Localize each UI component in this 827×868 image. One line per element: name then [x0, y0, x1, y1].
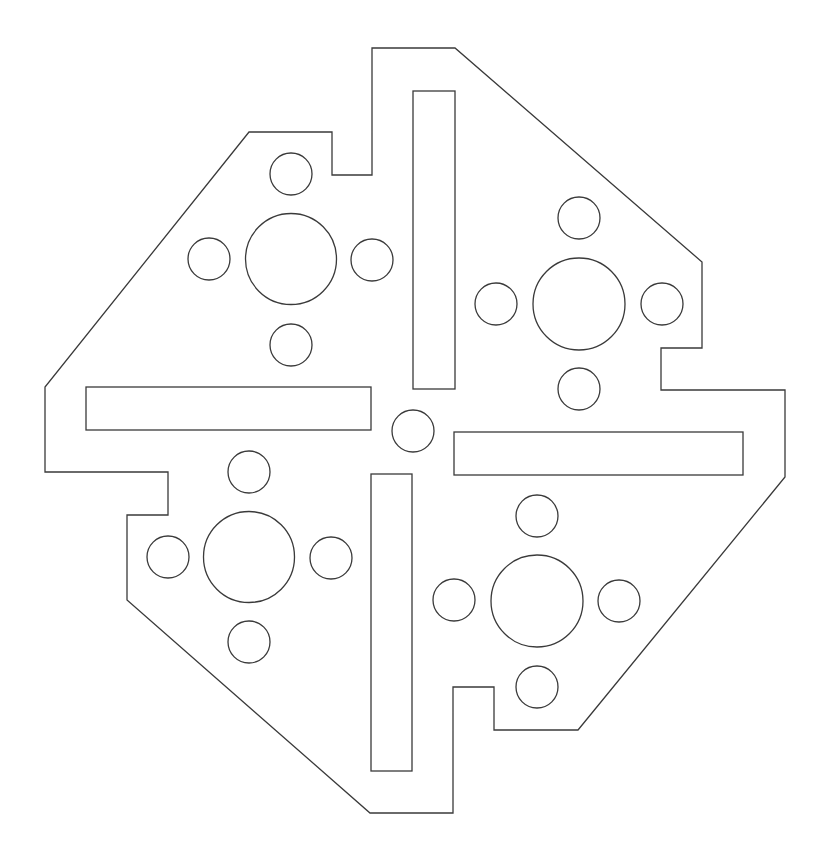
- bottom-left-bolt-hole: [147, 536, 189, 578]
- slot-left-horizontal: [86, 387, 371, 430]
- top-right-bolt-hole: [558, 197, 600, 239]
- center-hole: [392, 410, 434, 452]
- bottom-right-bolt-hole: [433, 579, 475, 621]
- drawing-canvas: [0, 0, 827, 868]
- top-left-bolt-hole: [270, 153, 312, 195]
- top-right-main-hole: [533, 258, 625, 350]
- top-left-bolt-hole: [351, 239, 393, 281]
- bottom-left-main-hole: [204, 512, 295, 603]
- top-left-main-hole: [246, 214, 337, 305]
- slots-group: [86, 91, 743, 771]
- top-left-bolt-hole: [188, 238, 230, 280]
- slot-right-horizontal: [454, 432, 743, 475]
- top-right-bolt-hole: [558, 368, 600, 410]
- bottom-right-bolt-hole: [516, 666, 558, 708]
- top-right-bolt-hole: [641, 283, 683, 325]
- slot-top-vertical: [413, 91, 455, 389]
- bottom-left-bolt-hole: [228, 451, 270, 493]
- bottom-right-bolt-hole: [516, 495, 558, 537]
- slot-bottom-vertical: [371, 474, 412, 771]
- bottom-right-main-hole: [491, 555, 583, 647]
- top-left-bolt-hole: [270, 324, 312, 366]
- bottom-left-bolt-hole: [228, 621, 270, 663]
- bottom-left-bolt-hole: [310, 537, 352, 579]
- plate-drawing: [0, 0, 827, 868]
- bottom-right-bolt-hole: [598, 580, 640, 622]
- top-right-bolt-hole: [475, 283, 517, 325]
